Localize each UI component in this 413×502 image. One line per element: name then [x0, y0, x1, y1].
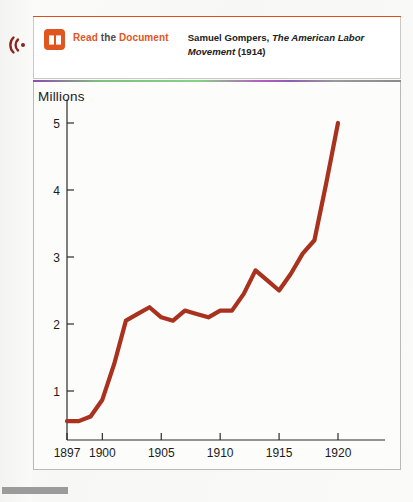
read-document-callout[interactable]: Read the Document Samuel Gompers, The Am…	[33, 17, 401, 79]
x-tick-label: 1900	[89, 446, 116, 460]
the-word: the	[101, 32, 116, 43]
audio-waves-icon[interactable]	[6, 33, 30, 57]
x-tick-label: 1897	[54, 446, 81, 460]
y-tick-label: 4	[53, 184, 60, 198]
y-tick-label: 5	[53, 117, 60, 131]
y-tick-label: 1	[53, 385, 60, 399]
data-line-union-membership	[67, 123, 338, 421]
read-document-link[interactable]: Read the Document	[73, 32, 169, 43]
page-bottom-bar	[2, 487, 68, 494]
line-chart: 12345189719001905191019151920	[33, 82, 401, 470]
citation-author: Samuel Gompers,	[188, 32, 270, 43]
open-book-icon	[44, 29, 65, 50]
citation-text: Samuel Gompers, The American Labor Movem…	[188, 31, 390, 59]
x-tick-label: 1920	[325, 446, 352, 460]
y-tick-label: 2	[53, 318, 60, 332]
read-word: Read	[73, 32, 98, 43]
x-tick-label: 1905	[148, 446, 175, 460]
citation-year: (1914)	[238, 46, 266, 57]
document-word: Document	[119, 32, 169, 43]
page-left-margin	[0, 0, 32, 502]
x-tick-label: 1915	[266, 446, 293, 460]
x-tick-label: 1910	[207, 446, 234, 460]
y-tick-label: 3	[53, 251, 60, 265]
